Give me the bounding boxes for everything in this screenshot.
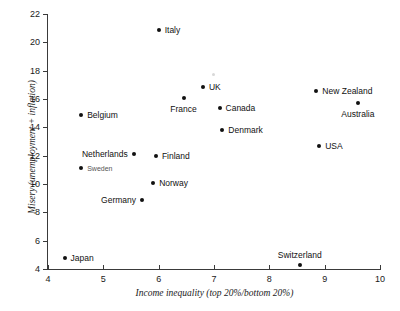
x-tick-mark bbox=[159, 265, 160, 269]
scatter-chart: 4567891046810121416182022 JapanBelgiumSw… bbox=[0, 0, 400, 311]
x-tick-label: 9 bbox=[322, 274, 327, 284]
y-tick-mark bbox=[43, 212, 47, 213]
data-point-label: Japan bbox=[71, 253, 94, 263]
data-point-label: Sweden bbox=[87, 165, 112, 172]
data-point-marker bbox=[218, 106, 222, 110]
y-tick-mark bbox=[43, 127, 47, 128]
x-tick-label: 10 bbox=[375, 274, 385, 284]
data-point-label: France bbox=[170, 104, 196, 114]
data-point-marker bbox=[132, 152, 136, 156]
x-tick-label: 8 bbox=[267, 274, 272, 284]
y-tick-mark bbox=[43, 269, 47, 270]
x-axis-title: Income inequality (top 20%/bottom 20%) bbox=[48, 288, 381, 298]
x-tick-mark bbox=[48, 265, 49, 269]
data-point-marker bbox=[140, 198, 144, 202]
y-tick-mark bbox=[43, 71, 47, 72]
y-axis-line bbox=[47, 14, 48, 270]
y-tick-mark bbox=[43, 241, 47, 242]
data-point-marker bbox=[182, 96, 186, 100]
x-tick-mark bbox=[380, 265, 381, 269]
x-tick-label: 4 bbox=[45, 274, 50, 284]
data-point-label: UK bbox=[209, 82, 221, 92]
data-point-label: Norway bbox=[159, 178, 188, 188]
data-point-label: Denmark bbox=[228, 125, 262, 135]
y-tick-mark bbox=[43, 14, 47, 15]
x-axis-line bbox=[48, 269, 381, 270]
y-tick-mark bbox=[43, 184, 47, 185]
data-point-label: Switzerland bbox=[278, 250, 322, 260]
data-point-label: Netherlands bbox=[82, 149, 128, 159]
data-point-marker bbox=[154, 154, 158, 158]
x-tick-label: 6 bbox=[156, 274, 161, 284]
data-point-label: Australia bbox=[341, 109, 374, 119]
data-point-marker bbox=[356, 101, 360, 105]
data-point-marker bbox=[298, 263, 302, 267]
x-tick-mark bbox=[103, 265, 104, 269]
y-tick-label: 6 bbox=[22, 236, 40, 246]
data-point-label: USA bbox=[325, 141, 342, 151]
x-tick-label: 5 bbox=[101, 274, 106, 284]
data-point-marker bbox=[157, 28, 161, 32]
x-tick-mark bbox=[325, 265, 326, 269]
data-point-label: Belgium bbox=[87, 110, 118, 120]
data-point-label: Germany bbox=[101, 195, 136, 205]
data-point-marker bbox=[220, 128, 224, 132]
y-tick-mark bbox=[43, 156, 47, 157]
data-point-label: New Zealand bbox=[322, 86, 372, 96]
y-tick-label: 4 bbox=[22, 264, 40, 274]
x-tick-mark bbox=[269, 265, 270, 269]
data-point-marker bbox=[79, 113, 83, 117]
scan-artifact bbox=[212, 73, 215, 76]
data-point-label: Italy bbox=[165, 25, 181, 35]
y-tick-label: 20 bbox=[22, 37, 40, 47]
data-point-marker bbox=[151, 181, 155, 185]
data-point-marker bbox=[317, 144, 321, 148]
x-tick-mark bbox=[214, 265, 215, 269]
x-tick-label: 7 bbox=[211, 274, 216, 284]
data-point-marker bbox=[79, 166, 83, 170]
data-point-marker bbox=[63, 256, 67, 260]
data-point-marker bbox=[201, 85, 205, 89]
data-point-label: Canada bbox=[226, 103, 256, 113]
y-axis-title: Misery (unemployment + inflation) bbox=[27, 62, 37, 232]
y-tick-mark bbox=[43, 99, 47, 100]
y-tick-mark bbox=[43, 42, 47, 43]
data-point-label: Finland bbox=[162, 151, 190, 161]
y-tick-label: 22 bbox=[22, 9, 40, 19]
data-point-marker bbox=[314, 89, 318, 93]
